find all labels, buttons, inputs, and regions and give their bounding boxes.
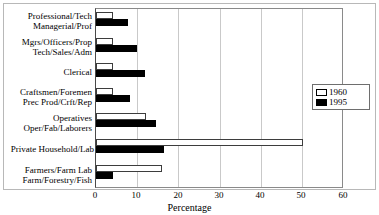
category-label-0-line-1: Managerial/Prof [28, 21, 92, 31]
xtick-label-5: 50 [289, 190, 313, 200]
category-label-2-line-0: Clerical [64, 67, 93, 77]
chart-legend: 1960 1995 [312, 84, 370, 110]
xtick-label-1: 10 [124, 190, 148, 200]
bar-1995-5 [96, 146, 164, 153]
bar-1960-4 [96, 113, 146, 120]
category-label-1-line-0: Mgrs/Officers/Prop [22, 37, 92, 47]
category-label-4: Operatives Oper/Fab/Laborers [24, 113, 92, 133]
bar-1995-4 [96, 120, 156, 127]
category-label-3-line-0: Craftsmen/Foremen [20, 87, 92, 97]
category-label-6-line-0: Farmers/Farm Lab [22, 165, 92, 175]
bar-group-6 [96, 162, 342, 188]
bar-1960-0 [96, 12, 113, 19]
category-label-5: Private Household/Lab [11, 144, 94, 154]
chart-figure: Professional/Tech Managerial/Prof Mgrs/O… [0, 0, 379, 215]
legend-entry-1995: 1995 [316, 97, 366, 107]
bar-1995-1 [96, 45, 137, 52]
x-axis-title: Percentage [0, 202, 379, 213]
legend-label-1960: 1960 [329, 87, 347, 97]
category-label-3: Craftsmen/Foremen Prec Prod/Crft/Rep [20, 87, 92, 107]
bar-group-4 [96, 110, 342, 136]
bar-1960-2 [96, 63, 113, 70]
bar-group-0 [96, 9, 342, 35]
xtick-label-4: 40 [248, 190, 272, 200]
bar-group-3 [96, 85, 342, 110]
bar-1995-2 [96, 70, 145, 77]
legend-entry-1960: 1960 [316, 87, 366, 97]
legend-swatch-1960-icon [316, 89, 327, 96]
xtick-label-0: 0 [83, 190, 107, 200]
bar-1995-0 [96, 19, 128, 26]
xtick-label-6: 60 [331, 190, 355, 200]
category-label-4-line-1: Oper/Fab/Laborers [24, 123, 92, 133]
category-label-5-line-0: Private Household/Lab [11, 144, 94, 154]
category-label-0: Professional/Tech Managerial/Prof [28, 11, 92, 31]
category-label-2: Clerical [64, 67, 93, 77]
bar-1995-6 [96, 172, 113, 179]
category-label-6-line-1: Farm/Forestry/Fish [22, 175, 92, 185]
bar-group-1 [96, 35, 342, 60]
bar-1960-6 [96, 165, 162, 172]
bar-1960-1 [96, 38, 113, 45]
bar-group-5 [96, 136, 342, 162]
plot-area [95, 8, 343, 188]
category-label-0-line-0: Professional/Tech [28, 11, 92, 21]
bar-1960-5 [96, 139, 303, 146]
legend-swatch-1995-icon [316, 99, 327, 106]
xtick-label-2: 20 [166, 190, 190, 200]
legend-label-1995: 1995 [329, 97, 347, 107]
bar-1960-3 [96, 88, 113, 95]
category-label-1: Mgrs/Officers/Prop Tech/Sales/Adm [22, 37, 92, 57]
category-label-3-line-1: Prec Prod/Crft/Rep [20, 97, 92, 107]
category-label-6: Farmers/Farm Lab Farm/Forestry/Fish [22, 165, 92, 185]
bar-group-2 [96, 60, 342, 85]
category-label-1-line-1: Tech/Sales/Adm [22, 47, 92, 57]
bar-1995-3 [96, 95, 130, 102]
category-label-4-line-0: Operatives [24, 113, 92, 123]
xtick-label-3: 30 [207, 190, 231, 200]
